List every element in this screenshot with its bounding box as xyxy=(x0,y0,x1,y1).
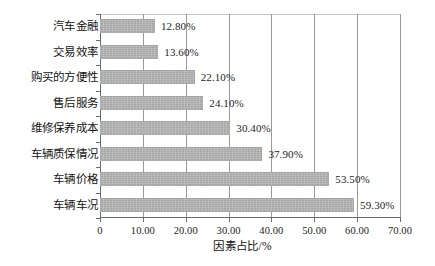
bar-row: 37.90% xyxy=(100,142,400,168)
gridline-70 xyxy=(400,14,401,218)
category-label-jiaoyi-xiaolv: 交易效率 xyxy=(2,45,98,59)
bar-row: 22.10% xyxy=(100,65,400,91)
category-label-qiche-jinrong: 汽车金融 xyxy=(2,19,98,33)
bar-value-label: 12.80% xyxy=(161,16,196,36)
x-tick-label-70: 70.00 xyxy=(388,224,412,238)
bar-row: 30.40% xyxy=(100,116,400,142)
bar-value-label: 59.30% xyxy=(360,195,395,215)
x-tick xyxy=(357,218,358,222)
x-axis-title: 因素占比/% xyxy=(0,239,435,253)
y-tick xyxy=(96,142,100,143)
plot-area: 12.80% 13.60% 22.10% 24.10% 30.40% 37.90… xyxy=(100,14,400,218)
x-axis-title-text: 因素占比/% xyxy=(213,239,272,253)
category-label-cheliang-zhibao-qingkuang: 车辆质保情况 xyxy=(2,147,98,161)
x-tick-label-0: 0 xyxy=(97,224,102,238)
bar-cheliang-jiage xyxy=(100,172,329,186)
x-tick xyxy=(314,218,315,222)
x-tick-label-40: 40.00 xyxy=(259,224,283,238)
x-tick xyxy=(100,218,101,222)
category-label-goumai-fangbianxing: 购买的方便性 xyxy=(2,70,98,84)
bar-value-label: 37.90% xyxy=(268,144,303,164)
x-tick-label-30: 30.00 xyxy=(217,224,241,238)
bar-row: 12.80% xyxy=(100,14,400,40)
bar-row: 53.50% xyxy=(100,167,400,193)
bar-cheliang-zhibao-qingkuang xyxy=(100,147,262,161)
bar-goumai-fangbianxing xyxy=(100,70,195,84)
y-tick xyxy=(96,91,100,92)
x-tick-label-60: 60.00 xyxy=(345,224,369,238)
x-tick xyxy=(186,218,187,222)
category-label-cheliang-jiage: 车辆价格 xyxy=(2,172,98,186)
x-tick xyxy=(229,218,230,222)
bar-value-label: 24.10% xyxy=(209,93,244,113)
x-axis-line xyxy=(100,217,401,218)
bar-row: 59.30% xyxy=(100,193,400,219)
y-tick xyxy=(96,167,100,168)
y-tick xyxy=(96,65,100,66)
x-tick-label-10: 10.00 xyxy=(131,224,155,238)
x-tick-label-20: 20.00 xyxy=(174,224,198,238)
category-label-weixiu-baoyang-chengben: 维修保养成本 xyxy=(2,121,98,135)
bar-row: 13.60% xyxy=(100,40,400,66)
bar-weixiu-baoyang-chengben xyxy=(100,121,230,135)
bar-chart-figure: 12.80% 13.60% 22.10% 24.10% 30.40% 37.90… xyxy=(0,0,435,266)
y-tick xyxy=(96,40,100,41)
bar-value-label: 22.10% xyxy=(201,67,236,87)
category-label-shouhou-fuwu: 售后服务 xyxy=(2,96,98,110)
category-label-cheliang-chekuang: 车辆车况 xyxy=(2,198,98,212)
bar-shouhou-fuwu xyxy=(100,96,203,110)
x-tick xyxy=(271,218,272,222)
bar-value-label: 13.60% xyxy=(164,42,199,62)
y-tick xyxy=(96,193,100,194)
x-tick xyxy=(400,218,401,222)
y-tick xyxy=(96,116,100,117)
bar-jiaoyi-xiaolv xyxy=(100,45,158,59)
bar-row: 24.10% xyxy=(100,91,400,117)
bar-value-label: 30.40% xyxy=(236,118,271,138)
y-tick xyxy=(96,14,100,15)
x-tick-label-50: 50.00 xyxy=(302,224,326,238)
x-tick xyxy=(143,218,144,222)
bar-qiche-jinrong xyxy=(100,19,155,33)
bar-value-label: 53.50% xyxy=(335,169,370,189)
bar-cheliang-chekuang xyxy=(100,198,354,212)
